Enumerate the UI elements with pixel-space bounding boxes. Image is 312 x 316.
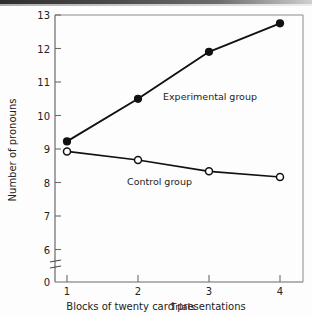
y-tick-label-13: 13 — [37, 10, 50, 21]
y-tick-label-9: 9 — [44, 144, 50, 155]
x-axis-ticks — [67, 275, 280, 282]
data-point-experimental-4 — [276, 19, 284, 27]
data-point-experimental-1 — [63, 137, 71, 145]
y-tick-label-12: 12 — [37, 44, 50, 55]
y-axis-title: Number of pronouns — [7, 99, 18, 202]
y-tick-label-6: 6 — [44, 245, 50, 256]
data-point-control-2 — [135, 157, 142, 164]
annotation-control-group: Control group — [127, 176, 192, 187]
y-tick-label-0: 0 — [44, 277, 50, 288]
line-chart: 13 12 11 10 9 8 7 6 0 1 2 3 4 — [0, 0, 312, 316]
y-tick-label-7: 7 — [44, 211, 50, 222]
chart-figure: 13 12 11 10 9 8 7 6 0 1 2 3 4 — [0, 0, 312, 316]
figure-caption-svg: Blocks of twenty card presentations — [0, 296, 312, 316]
data-point-experimental-2 — [134, 95, 142, 103]
figure-caption: Blocks of twenty card presentations — [66, 301, 245, 312]
annotation-experimental-group: Experimental group — [163, 91, 257, 102]
data-point-experimental-3 — [205, 48, 213, 56]
y-axis-ticks — [55, 15, 61, 250]
y-tick-labels: 13 12 11 10 9 8 7 6 0 — [37, 10, 50, 288]
plot-frame — [55, 15, 303, 282]
y-tick-label-10: 10 — [37, 111, 50, 122]
y-tick-label-11: 11 — [37, 77, 50, 88]
data-point-control-3 — [206, 168, 213, 175]
series-experimental-group — [63, 19, 284, 145]
data-point-control-1 — [64, 148, 71, 155]
data-point-control-4 — [277, 174, 284, 181]
y-tick-label-8: 8 — [44, 178, 50, 189]
